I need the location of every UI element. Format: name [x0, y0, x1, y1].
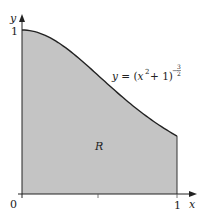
y-axis-arrow-icon: [19, 14, 25, 22]
function-label: y = (x 2 + 1) − 3 2: [111, 63, 181, 82]
region-label: R: [94, 140, 103, 153]
x-axis-label: x: [189, 198, 196, 211]
function-label-square: 2: [145, 68, 149, 76]
region-diagram: y 1 0 1 x R y = (x 2 + 1) − 3 2: [0, 0, 205, 215]
function-label-exp-num: 3: [177, 63, 181, 70]
svg-text:y = (x: y = (x: [111, 70, 144, 82]
svg-text:+ 1): + 1): [150, 70, 173, 82]
y-tick-label-one: 1: [11, 25, 18, 38]
y-axis-label: y: [9, 12, 17, 25]
shaded-region-r: [22, 30, 177, 194]
x-tick-label-one: 1: [174, 199, 181, 212]
origin-label: 0: [10, 198, 17, 211]
function-label-exp-den: 2: [177, 70, 181, 77]
x-axis-arrow-icon: [189, 191, 197, 197]
